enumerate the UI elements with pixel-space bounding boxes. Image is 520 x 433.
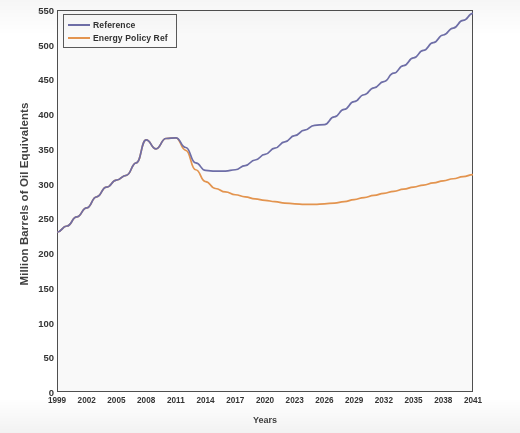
series-line-energy-policy-ref (57, 138, 473, 232)
legend-swatch-energy-policy-ref (68, 37, 90, 39)
series-lines (57, 10, 473, 392)
legend-swatch-reference (68, 24, 90, 26)
chart-figure: Million Barrels of Oil Equivalents 05010… (0, 0, 520, 433)
y-axis-tick-label: 550 (20, 5, 54, 16)
x-axis-tick-label: 2014 (196, 396, 214, 405)
x-axis-tick-label: 2008 (137, 396, 155, 405)
legend-item-reference: Reference (68, 18, 168, 31)
chart-legend: Reference Energy Policy Ref (63, 14, 177, 48)
x-axis-tick-label: 2041 (464, 396, 482, 405)
x-axis-tick-label: 2011 (167, 396, 185, 405)
legend-label-reference: Reference (93, 20, 135, 30)
y-axis-tick-label: 500 (20, 39, 54, 50)
x-axis-tick-label: 2020 (256, 396, 274, 405)
x-axis-tick-label: 2029 (345, 396, 363, 405)
legend-item-energy-policy-ref: Energy Policy Ref (68, 31, 168, 44)
y-axis-tick-label: 300 (20, 178, 54, 189)
y-axis-tick-label: 50 (20, 352, 54, 363)
y-axis-tick-label: 350 (20, 143, 54, 154)
y-axis-tick-label: 100 (20, 317, 54, 328)
y-axis-tick-label: 450 (20, 74, 54, 85)
x-axis-tick-label: 2032 (375, 396, 393, 405)
x-axis-tick-label: 2005 (107, 396, 125, 405)
x-axis-tick-label: 1999 (48, 396, 66, 405)
x-axis-tick-label: 2038 (434, 396, 452, 405)
x-axis-tick-label: 2035 (404, 396, 422, 405)
y-axis-tick-labels: 050100150200250300350400450500550 (18, 0, 54, 433)
x-axis-tick-label: 2002 (78, 396, 96, 405)
x-axis-title: Years (57, 415, 473, 425)
x-axis-tick-label: 2026 (315, 396, 333, 405)
y-axis-tick-label: 150 (20, 282, 54, 293)
legend-label-energy-policy-ref: Energy Policy Ref (93, 33, 168, 43)
y-axis-tick-label: 400 (20, 109, 54, 120)
x-axis-tick-label: 2017 (226, 396, 244, 405)
x-axis-tick-label: 2023 (286, 396, 304, 405)
y-axis-tick-label: 250 (20, 213, 54, 224)
y-axis-tick-label: 200 (20, 248, 54, 259)
